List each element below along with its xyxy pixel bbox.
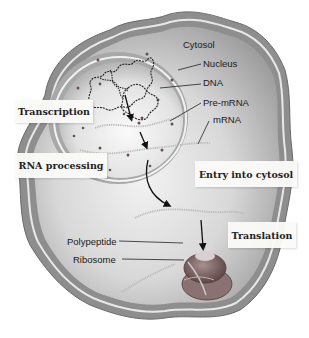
step-rna-processing: RNA processing — [15, 153, 107, 178]
polypeptide-label: Polypeptide — [67, 237, 117, 247]
pre-mrna-label: Pre-mRNA — [203, 98, 249, 108]
step-entry-into-cytosol: Entry into cytosol — [195, 161, 297, 187]
step-transcription: Transcription — [15, 100, 93, 123]
mrna-label: mRNA — [213, 115, 241, 125]
dna-label: DNA — [203, 78, 223, 88]
cell-diagram: Cytosol Nucleus DNA Pre-mRNA mRNA Polype… — [0, 0, 309, 338]
step-translation: Translation — [228, 222, 296, 248]
ribosome-label: Ribosome — [73, 255, 116, 265]
nucleus-label: Nucleus — [203, 59, 237, 69]
cytosol-label: Cytosol — [183, 40, 215, 50]
